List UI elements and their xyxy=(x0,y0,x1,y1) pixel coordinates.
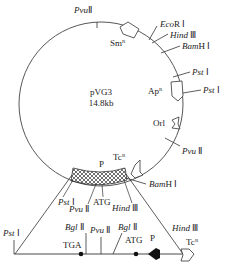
svg-text:BamH Ⅰ: BamH Ⅰ xyxy=(149,179,177,189)
svg-text:TGA: TGA xyxy=(63,240,82,250)
svg-text:Bgl Ⅱ: Bgl Ⅱ xyxy=(118,222,137,232)
svg-text:ApR: ApR xyxy=(148,86,163,96)
insert-segment xyxy=(71,168,127,185)
svg-text:Pst Ⅰ: Pst Ⅰ xyxy=(191,67,209,77)
site-psti-circle-1: Pst Ⅰ xyxy=(173,67,209,77)
svg-text:P: P xyxy=(150,233,155,243)
svg-text:Pvu Ⅱ: Pvu Ⅱ xyxy=(68,204,89,214)
svg-text:TcR: TcR xyxy=(186,237,199,247)
svg-text:Hind Ⅲ: Hind Ⅲ xyxy=(169,30,196,40)
start-codon-atg: ATG xyxy=(125,235,143,256)
plasmid-name: pVG3 xyxy=(90,87,112,97)
svg-text:Orl: Orl xyxy=(153,118,165,128)
svg-text:Hind Ⅲ: Hind Ⅲ xyxy=(111,203,138,213)
svg-text:P: P xyxy=(99,159,104,169)
svg-text:Hind Ⅲ: Hind Ⅲ xyxy=(171,223,198,233)
plasmid-size: 14.8kb xyxy=(89,98,114,108)
svg-text:Pvu Ⅱ: Pvu Ⅱ xyxy=(181,146,202,156)
svg-text:Pst Ⅰ: Pst Ⅰ xyxy=(2,228,20,238)
svg-text:Bgl Ⅱ: Bgl Ⅱ xyxy=(65,222,84,232)
site-psti-circle-2: Pst Ⅰ xyxy=(183,85,220,95)
sm-resistance-gene: SmR xyxy=(110,22,139,48)
svg-text:TcR: TcR xyxy=(113,152,126,162)
site-pvuii-top: PvuⅡ xyxy=(73,5,97,28)
svg-text:SmR: SmR xyxy=(110,38,126,48)
promoter-arrow: P xyxy=(148,233,160,260)
plasmid-map-diagram: pVG3 14.8kb PvuⅡ SmR EcoR Ⅰ Hind Ⅲ BamH … xyxy=(0,0,229,270)
ap-resistance-gene: ApR xyxy=(148,81,183,101)
svg-text:ATG: ATG xyxy=(125,235,143,245)
svg-text:ATG: ATG xyxy=(93,197,111,207)
linear-site-psti: Pst Ⅰ xyxy=(2,228,20,254)
linear-site-pvuii: Pvu Ⅱ xyxy=(89,225,110,254)
svg-text:EcoR Ⅰ: EcoR Ⅰ xyxy=(159,19,185,29)
tc-resistance-gene-linear: TcR xyxy=(181,237,199,261)
site-bamhi-circle-top: BamH Ⅰ xyxy=(161,41,210,53)
svg-text:PvuⅡ: PvuⅡ xyxy=(73,5,92,15)
svg-text:BamH Ⅰ: BamH Ⅰ xyxy=(182,41,210,51)
svg-text:Pvu Ⅱ: Pvu Ⅱ xyxy=(89,225,110,235)
ori-origin: Orl xyxy=(153,117,180,129)
svg-text:Pst Ⅰ: Pst Ⅰ xyxy=(202,85,220,95)
